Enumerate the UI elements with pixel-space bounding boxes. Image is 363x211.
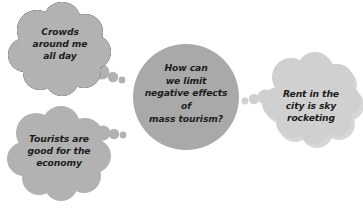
diagram-canvas: Crowds around me all day Tourists are go… <box>0 0 363 211</box>
cloud-rent-label: Rent in the city is sky rocketing <box>268 88 354 123</box>
cloud-crowds-label: Crowds around me all day <box>18 26 102 61</box>
central-question-label: How can we limit negative effects of mas… <box>133 62 239 125</box>
cloud-tourists-label: Tourists are good for the economy <box>14 133 104 168</box>
